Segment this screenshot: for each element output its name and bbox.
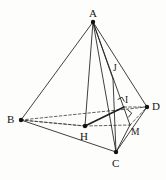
vertex-label-C: C xyxy=(112,158,119,169)
vertex-label-J: J xyxy=(113,64,117,74)
vertex-dot-D xyxy=(145,105,149,109)
edge-A-B xyxy=(21,22,93,120)
edge-A-H xyxy=(85,22,93,126)
vertex-label-M: M xyxy=(131,128,139,138)
vertex-dot-H xyxy=(83,124,87,128)
vertex-dot-B xyxy=(19,118,23,122)
geometry-figure: ABCDHIJM xyxy=(0,0,166,180)
vertex-label-I: I xyxy=(125,96,128,106)
vertex-label-A: A xyxy=(89,8,97,19)
edge-C-J xyxy=(113,79,116,152)
vertex-dot-A xyxy=(91,20,95,24)
edge-A-D xyxy=(93,22,147,107)
geometry-canvas xyxy=(0,0,166,180)
edge-C-M xyxy=(116,125,130,152)
edge-A-J xyxy=(93,22,113,79)
vertex-label-D: D xyxy=(152,101,160,112)
vertex-label-H: H xyxy=(80,131,88,142)
edge-M-D-dashed xyxy=(130,107,147,125)
edge-B-D-dashed xyxy=(21,107,147,120)
edge-A-C xyxy=(93,22,116,152)
edge-H-M-dashed xyxy=(85,125,130,126)
vertex-label-B: B xyxy=(7,114,14,125)
vertex-dot-C xyxy=(114,150,118,154)
edge-H-I xyxy=(85,107,124,126)
